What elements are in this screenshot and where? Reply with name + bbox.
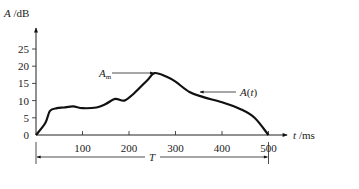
- duration-label: T: [149, 151, 156, 163]
- y-tick-label: 5: [24, 112, 30, 124]
- y-tick-label: 25: [18, 43, 30, 55]
- x-tick-label: 200: [121, 142, 138, 154]
- chart: 0510152025100200300400500A /dBt /msAmA(t…: [0, 0, 359, 189]
- amplitude-curve: [36, 73, 269, 135]
- y-tick-label: 0: [24, 129, 30, 141]
- y-tick-label: 20: [18, 60, 30, 72]
- y-tick-label: 10: [18, 95, 30, 107]
- curve-label: A(t): [239, 86, 257, 99]
- y-tick-label: 15: [18, 77, 30, 89]
- x-tick-label: 100: [74, 142, 91, 154]
- x-tick-label: 400: [214, 142, 231, 154]
- x-tick-label: 300: [167, 142, 184, 154]
- peak-label: Am: [98, 67, 112, 81]
- y-axis-label: A /dB: [3, 7, 29, 19]
- x-axis-label: t /ms: [293, 129, 315, 141]
